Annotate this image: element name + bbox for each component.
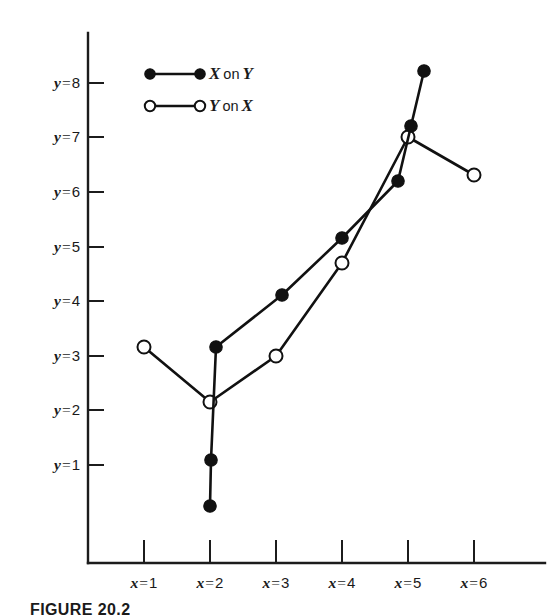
data-point-x-on-y — [276, 289, 288, 301]
data-point-y-on-x — [270, 350, 283, 363]
y-tick-label-equals: = — [61, 74, 72, 91]
legend-entry-y-on-x: YonX — [209, 96, 253, 116]
y-tick-label-variable: y — [54, 74, 61, 91]
y-axis-tick-label: y=6 — [12, 183, 80, 201]
x-tick-label-variable: x — [461, 574, 469, 591]
y-axis-tick-label: y=8 — [12, 74, 80, 92]
y-tick-label-variable: y — [54, 401, 61, 418]
y-axis-tick-label: y=2 — [12, 401, 80, 419]
x-tick-label-equals: = — [204, 574, 215, 591]
data-point-x-on-y — [418, 65, 430, 77]
x-tick-label-equals: = — [336, 574, 347, 591]
legend-marker-open-circle — [145, 101, 155, 111]
y-tick-label-value: 4 — [72, 292, 80, 309]
y-tick-label-variable: y — [54, 292, 61, 309]
y-tick-label-equals: = — [61, 292, 72, 309]
data-point-x-on-y — [205, 454, 217, 466]
legend-entry-x-on-y: XonY — [209, 64, 253, 84]
x-tick-label-variable: x — [131, 574, 139, 591]
x-tick-label-variable: x — [263, 574, 271, 591]
data-point-y-on-x — [138, 341, 151, 354]
x-tick-label-value: 4 — [347, 574, 355, 591]
y-tick-label-variable: y — [54, 128, 61, 145]
data-point-x-on-y — [405, 120, 417, 132]
y-axis-tick-label: y=7 — [12, 128, 80, 146]
legend-marker-filled-circle — [145, 69, 155, 79]
y-tick-label-equals: = — [61, 183, 72, 200]
y-tick-label-value: 1 — [72, 456, 80, 473]
x-axis-tick-label: x=5 — [395, 574, 422, 592]
data-point-x-on-y — [210, 341, 222, 353]
x-axis-ticks — [144, 540, 474, 563]
y-tick-label-value: 8 — [72, 74, 80, 91]
y-tick-label-variable: y — [54, 347, 61, 364]
x-tick-label-variable: x — [395, 574, 403, 591]
x-tick-label-variable: x — [329, 574, 337, 591]
y-tick-label-value: 6 — [72, 183, 80, 200]
x-tick-label-equals: = — [270, 574, 281, 591]
data-point-x-on-y — [336, 232, 348, 244]
legend-marker-open-circle — [195, 101, 205, 111]
legend-label-second-variable: X — [242, 96, 253, 115]
y-tick-label-variable: y — [54, 456, 61, 473]
x-tick-label-value: 6 — [479, 574, 487, 591]
legend-label-conjunction: on — [220, 66, 242, 82]
legend-label-second-variable: Y — [242, 64, 252, 83]
y-tick-label-equals: = — [61, 347, 72, 364]
x-tick-label-value: 5 — [413, 574, 421, 591]
chart-canvas — [0, 0, 550, 615]
x-tick-label-equals: = — [138, 574, 149, 591]
data-point-x-on-y — [204, 500, 216, 512]
y-axis-tick-label: y=1 — [12, 456, 80, 474]
legend-swatches — [145, 69, 205, 111]
data-point-y-on-x — [468, 169, 481, 182]
x-tick-label-value: 1 — [149, 574, 157, 591]
y-tick-label-variable: y — [54, 238, 61, 255]
x-tick-label-value: 2 — [215, 574, 223, 591]
x-tick-label-value: 3 — [281, 574, 289, 591]
y-tick-label-variable: y — [54, 183, 61, 200]
figure-caption: FIGURE 20.2 — [30, 601, 130, 615]
y-tick-label-value: 7 — [72, 128, 80, 145]
x-axis-tick-label: x=4 — [329, 574, 356, 592]
y-tick-label-equals: = — [61, 401, 72, 418]
series-line-x-on-y — [210, 71, 424, 506]
legend-label-first-variable: Y — [209, 96, 219, 115]
x-tick-label-variable: x — [197, 574, 205, 591]
y-axis-tick-label: y=5 — [12, 238, 80, 256]
x-tick-label-equals: = — [402, 574, 413, 591]
x-axis-tick-label: x=6 — [461, 574, 488, 592]
x-axis-tick-label: x=2 — [197, 574, 224, 592]
y-tick-label-value: 2 — [72, 401, 80, 418]
figure-container: y=8 y=7 y=6 y=5 y=4 y=3 y=2 y=1 x=1 x=2 … — [0, 0, 550, 615]
y-axis-tick-label: y=4 — [12, 292, 80, 310]
x-axis-tick-label: x=3 — [263, 574, 290, 592]
y-axis-ticks — [88, 83, 104, 465]
y-tick-label-equals: = — [61, 238, 72, 255]
legend-label-conjunction: on — [219, 98, 241, 114]
legend-marker-filled-circle — [195, 69, 205, 79]
legend-label-first-variable: X — [209, 64, 220, 83]
y-tick-label-equals: = — [61, 128, 72, 145]
y-tick-label-equals: = — [61, 456, 72, 473]
x-axis-tick-label: x=1 — [131, 574, 158, 592]
data-point-y-on-x — [336, 257, 349, 270]
y-tick-label-value: 5 — [72, 238, 80, 255]
data-point-x-on-y — [392, 175, 404, 187]
y-axis-tick-label: y=3 — [12, 347, 80, 365]
y-tick-label-value: 3 — [72, 347, 80, 364]
x-tick-label-equals: = — [468, 574, 479, 591]
series-x-on-y — [204, 65, 430, 512]
